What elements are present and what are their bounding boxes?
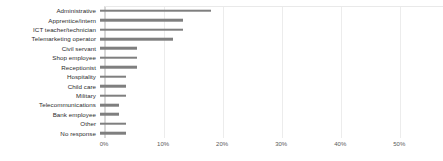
category-label: Telemarketing operator: [0, 35, 100, 42]
bar-row: Military: [0, 91, 443, 100]
x-tick-label: 30%: [275, 141, 287, 148]
bar-row: Shop employee: [0, 53, 443, 62]
bar-row: Hospitality: [0, 72, 443, 81]
bar-track: [100, 44, 439, 53]
bar: [100, 123, 126, 126]
bar: [100, 132, 126, 135]
bar: [100, 75, 126, 78]
bar-track: [100, 119, 439, 128]
x-tick-label: 0%: [100, 141, 109, 148]
category-label: Shop employee: [0, 54, 100, 61]
x-axis: 0%10%20%30%40%50%: [104, 138, 443, 156]
category-label: Administrative: [0, 7, 100, 14]
category-label: Other: [0, 120, 100, 127]
category-label: No response: [0, 130, 100, 137]
category-label: ICT teacher/technician: [0, 26, 100, 33]
bar-row: Civil servant: [0, 44, 443, 53]
bar-track: [100, 129, 439, 138]
bar: [100, 28, 183, 31]
bar-row: Bank employee: [0, 110, 443, 119]
bar-track: [100, 25, 439, 34]
bar-row: Telemarketing operator: [0, 34, 443, 43]
x-tick-label: 50%: [393, 141, 405, 148]
x-tick-label: 10%: [157, 141, 169, 148]
bar-row: Apprentice/intern: [0, 15, 443, 24]
bar-row: Administrative: [0, 6, 443, 15]
bar: [100, 85, 126, 88]
bar-track: [100, 91, 439, 100]
bar-track: [100, 16, 439, 25]
category-label: Civil servant: [0, 45, 100, 52]
bar-track: [100, 34, 439, 43]
bar-row: Telecommunications: [0, 100, 443, 109]
bar-track: [100, 100, 439, 109]
bar-row: Other: [0, 119, 443, 128]
bar-track: [100, 63, 439, 72]
x-tick-label: 40%: [334, 141, 346, 148]
x-tick-label: 20%: [216, 141, 228, 148]
bar: [100, 113, 119, 116]
bar-rows: AdministrativeApprentice/internICT teach…: [0, 6, 443, 138]
category-label: Military: [0, 92, 100, 99]
category-label: Telecommunications: [0, 101, 100, 108]
bar-row: Child care: [0, 81, 443, 90]
category-label: Apprentice/intern: [0, 17, 100, 24]
bar-track: [100, 53, 439, 62]
bar: [100, 38, 173, 41]
bar-track: [100, 82, 439, 91]
bar: [100, 94, 126, 97]
bar: [100, 57, 137, 60]
bar: [100, 19, 183, 22]
bar-row: No response: [0, 129, 443, 138]
bar-row: Receptionist: [0, 63, 443, 72]
category-label: Receptionist: [0, 64, 100, 71]
category-label: Hospitality: [0, 73, 100, 80]
bar-track: [100, 110, 439, 119]
bar: [100, 104, 119, 107]
bar-track: [100, 6, 439, 15]
bar: [100, 47, 137, 50]
bar-row: ICT teacher/technician: [0, 25, 443, 34]
bar: [100, 66, 137, 69]
bar: [100, 9, 211, 12]
bar-track: [100, 72, 439, 81]
category-label: Bank employee: [0, 111, 100, 118]
bar-chart: AdministrativeApprentice/internICT teach…: [0, 0, 443, 161]
category-label: Child care: [0, 83, 100, 90]
